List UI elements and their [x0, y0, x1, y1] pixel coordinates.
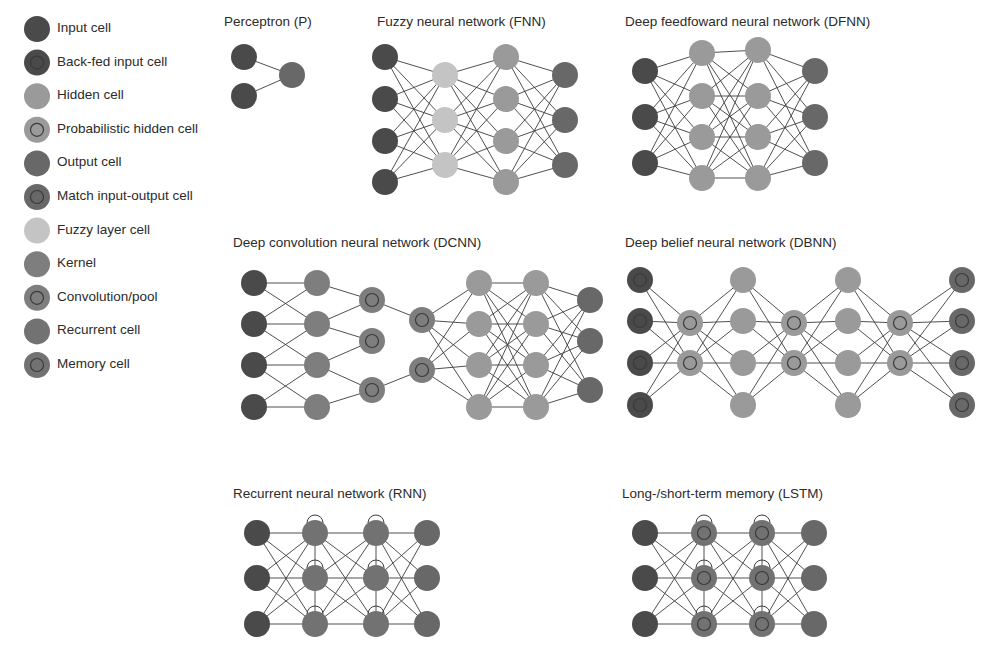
edges [385, 57, 565, 182]
probhidden-cell [677, 310, 703, 336]
legend-label: Hidden cell [57, 87, 124, 102]
conv-cell [359, 287, 385, 313]
probhidden-cell [781, 310, 807, 336]
output-cell [801, 565, 827, 591]
backfed-cell [627, 350, 653, 376]
memory-cell [691, 565, 717, 591]
network-title-dbnn: Deep belief neural network (DBNN) [625, 235, 837, 250]
input-cell [372, 169, 398, 195]
probhidden-cell [781, 350, 807, 376]
hidden-cell [835, 392, 861, 418]
hidden-cell [523, 311, 549, 337]
output-cell [414, 565, 440, 591]
hidden-cell [689, 40, 715, 66]
input-cell [244, 520, 270, 546]
conv-cell [359, 328, 385, 354]
probhidden-cell [887, 310, 913, 336]
output-cell [577, 377, 603, 403]
hidden-cell [523, 394, 549, 420]
kernel-cell [304, 394, 330, 420]
legend-label: Back-fed input cell [57, 54, 167, 69]
match-cell [949, 267, 975, 293]
nodes [231, 44, 305, 109]
hidden-cell [689, 83, 715, 109]
probhidden-cell [887, 350, 913, 376]
edges [254, 283, 590, 407]
hidden-cell [523, 352, 549, 378]
network-diagram-canvas [0, 0, 987, 660]
hidden-cell [466, 270, 492, 296]
legend-swatch-hidden [24, 83, 50, 109]
input-cell [632, 58, 658, 84]
backfed-cell [627, 392, 653, 418]
input-cell [632, 150, 658, 176]
edges [645, 50, 815, 178]
legend-label: Convolution/pool [57, 289, 158, 304]
input-cell [372, 44, 398, 70]
output-cell [801, 520, 827, 546]
network-title-rnn: Recurrent neural network (RNN) [233, 486, 427, 501]
hidden-cell [689, 124, 715, 150]
legend-label: Input cell [57, 20, 111, 35]
network-fnn [372, 44, 578, 195]
conv-cell [409, 307, 435, 333]
hidden-cell [493, 169, 519, 195]
hidden-cell [745, 37, 771, 63]
nodes [627, 267, 975, 418]
recurrent-cell [302, 565, 328, 591]
hidden-cell [730, 392, 756, 418]
input-cell [231, 83, 257, 109]
backfed-cell [627, 267, 653, 293]
conv-cell [409, 357, 435, 383]
hidden-cell [689, 165, 715, 191]
nodes [244, 520, 440, 637]
legend-swatch-recurrent [24, 318, 50, 344]
memory-cell [691, 520, 717, 546]
legend-swatch-output [24, 150, 50, 176]
hidden-cell [493, 128, 519, 154]
input-cell [632, 104, 658, 130]
hidden-cell [835, 350, 861, 376]
hidden-cell [745, 165, 771, 191]
network-title-dcnn: Deep convolution neural network (DCNN) [233, 235, 481, 250]
edges [257, 515, 427, 624]
fuzzy-cell [432, 107, 458, 133]
output-cell [802, 104, 828, 130]
hidden-cell [835, 267, 861, 293]
fuzzy-cell [432, 152, 458, 178]
output-cell [552, 62, 578, 88]
hidden-cell [730, 308, 756, 334]
nodes [372, 44, 578, 195]
match-cell [949, 392, 975, 418]
recurrent-cell [363, 520, 389, 546]
nodes [632, 520, 827, 637]
output-cell [552, 107, 578, 133]
legend-label: Probabilistic hidden cell [57, 121, 198, 136]
input-cell [241, 394, 267, 420]
legend-swatch-match [24, 184, 50, 210]
edges [640, 280, 962, 405]
recurrent-cell [302, 611, 328, 637]
network-dcnn [241, 270, 603, 420]
output-cell [414, 611, 440, 637]
input-cell [244, 611, 270, 637]
input-cell [244, 565, 270, 591]
fuzzy-cell [432, 62, 458, 88]
input-cell [241, 311, 267, 337]
edges [645, 515, 814, 624]
match-cell [949, 308, 975, 334]
output-cell [414, 520, 440, 546]
memory-cell [749, 611, 775, 637]
legend-swatch-kernel [24, 251, 50, 277]
input-cell [372, 128, 398, 154]
legend-label: Match input-output cell [57, 188, 193, 203]
input-cell [632, 520, 658, 546]
legend-label: Memory cell [57, 356, 130, 371]
legend-swatch-memory [24, 352, 50, 378]
output-cell [577, 328, 603, 354]
hidden-cell [745, 83, 771, 109]
recurrent-cell [302, 520, 328, 546]
conv-cell [359, 377, 385, 403]
kernel-cell [304, 270, 330, 296]
output-cell [279, 62, 305, 88]
